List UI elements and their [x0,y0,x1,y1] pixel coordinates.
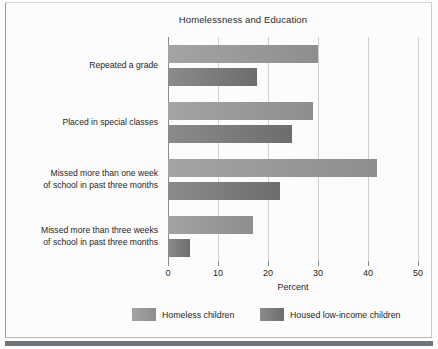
x-axis-ticks: 01020304050 [168,266,418,282]
legend-item-0[interactable]: Homeless children [132,308,234,321]
tick-label-20: 20 [253,268,283,278]
frame-top-border [5,2,432,3]
gridline [268,37,269,265]
category-label-1: Placed in special classes [0,117,163,129]
chart-title: Homelessness and Education [0,14,438,25]
gridline [418,37,419,265]
bar-housed-1 [168,125,292,143]
gridline [368,37,369,265]
category-label-line: Missed more than one week [0,168,158,180]
bar-homeless-1 [168,102,313,120]
legend-swatch-icon [260,308,284,321]
category-label-0: Repeated a grade [0,60,163,72]
category-label-line: Repeated a grade [0,60,158,72]
legend-swatch-icon [132,308,156,321]
bar-housed-2 [168,182,280,200]
category-label-2: Missed more than one weekof school in pa… [0,168,163,191]
category-label-line: of school in past three months [0,237,158,249]
tick-label-0: 0 [153,268,183,278]
legend-item-1[interactable]: Housed low-income children [260,308,401,321]
chart-legend: Homeless childrenHoused low-income child… [0,308,438,328]
legend-label: Housed low-income children [290,310,401,320]
tick-mark-40 [368,261,369,266]
chart-figure: Homelessness and Education Repeated a gr… [0,0,438,349]
tick-label-50: 50 [403,268,433,278]
frame-bottom-border [5,337,432,338]
category-label-3: Missed more than three weeksof school in… [0,225,163,248]
tick-label-30: 30 [303,268,333,278]
tick-mark-50 [418,261,419,266]
x-axis-label: Percent [168,282,418,292]
category-axis-labels: Repeated a gradePlaced in special classe… [0,37,163,265]
page-bottom-rule [5,341,433,346]
tick-label-40: 40 [353,268,383,278]
bar-homeless-3 [168,216,253,234]
bar-housed-0 [168,68,257,86]
tick-mark-10 [218,261,219,266]
tick-mark-30 [318,261,319,266]
tick-mark-20 [268,261,269,266]
bar-housed-3 [168,239,190,257]
tick-label-10: 10 [203,268,233,278]
bar-homeless-2 [168,159,377,177]
bar-homeless-0 [168,45,318,63]
category-label-line: Missed more than three weeks [0,225,158,237]
legend-label: Homeless children [162,310,234,320]
category-label-line: of school in past three months [0,180,158,192]
tick-mark-0 [168,261,169,266]
plot-area [168,37,418,265]
frame-right-border [431,2,432,338]
category-label-line: Placed in special classes [0,117,158,129]
gridline [318,37,319,265]
